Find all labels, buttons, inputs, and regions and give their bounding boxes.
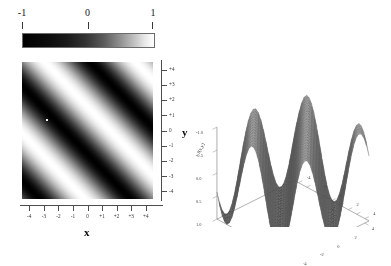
density-plot-artifact-dot [46,119,48,121]
surface-x-tick-label: 0 [337,245,339,249]
surface-x-tick-label: -2 [320,253,324,257]
density-x-tick-label: +4 [139,214,153,219]
density-y-tick [161,85,167,86]
surface-z-tick-label: 0.0 [196,177,202,181]
density-plot-group [22,62,153,199]
density-y-tick-label: +1 [169,113,175,118]
density-y-tick [161,176,167,177]
density-x-axis-line [20,205,163,206]
surface-x-tick-label: -4 [303,262,307,266]
density-y-tick-label: +4 [169,67,175,72]
colorbar-group: -1 0 1 [22,8,153,46]
density-x-tick [102,205,103,211]
density-x-tick [58,205,59,211]
density-y-tick-label: 0 [169,128,172,133]
density-y-tick [161,100,167,101]
density-x-tick [131,205,132,211]
colorbar-tick-max [152,22,153,29]
density-x-tick-label: -4 [22,214,36,219]
density-x-axis-label: x [84,226,90,238]
colorbar-tick-label-max: 1 [143,8,163,18]
density-y-tick-label: +2 [169,97,175,102]
colorbar-tick-label-mid: 0 [78,8,98,18]
density-x-tick [29,205,30,211]
density-plot [22,62,153,199]
density-y-tick-label: -3 [169,174,173,179]
surface-mesh [217,95,369,227]
density-x-tick-label: -3 [37,214,51,219]
density-plot-canvas [22,62,153,199]
surface-y-tick-label: 0 [340,194,342,198]
density-y-tick [161,70,167,71]
density-x-tick [117,205,118,211]
surface-plot-svg [193,52,391,227]
surface-y-tick-label: 2 [357,203,359,207]
surface-y-tick-label: -4 [307,176,311,180]
surface-plot-group: f(x,y) 1.00.50.0-0.5-1.0-4-2024-4-2024 [193,52,391,227]
colorbar-tick-min [22,22,23,29]
surface-x-tick-label: 2 [355,236,357,240]
density-x-tick-label: +1 [95,214,109,219]
density-x-tick-label: -1 [66,214,80,219]
density-y-axis-label: y [182,126,188,138]
density-x-tick-label: 0 [81,214,95,219]
surface-z-tick-label: -1.0 [196,131,203,135]
surface-x-tick-label: 4 [372,227,374,231]
colorbar-tick-label-min: -1 [12,8,32,18]
surface-y-tick-label: 4 [373,212,375,216]
surface-z-tick-label: 0.5 [196,200,202,204]
surface-y-tick-label: -2 [323,185,327,189]
density-y-tick-label: -4 [169,189,173,194]
density-y-tick-label: +3 [169,82,175,87]
density-x-tick-label: +3 [124,214,138,219]
density-x-tick [44,205,45,211]
density-y-tick [161,191,167,192]
density-y-tick-label: -1 [169,143,173,148]
density-y-tick [161,115,167,116]
density-y-tick [161,161,167,162]
surface-z-tick-label: 1.0 [196,223,202,227]
surface-z-tick-label: -0.5 [196,154,203,158]
colorbar-gradient-strip [22,33,155,48]
density-x-tick [146,205,147,211]
density-x-tick-label: +2 [110,214,124,219]
density-y-tick [161,131,167,132]
density-y-tick-label: -2 [169,158,173,163]
density-x-tick [73,205,74,211]
density-x-tick [88,205,89,211]
density-y-tick [161,146,167,147]
colorbar-tick-mid [88,22,89,29]
density-x-tick-label: -2 [51,214,65,219]
